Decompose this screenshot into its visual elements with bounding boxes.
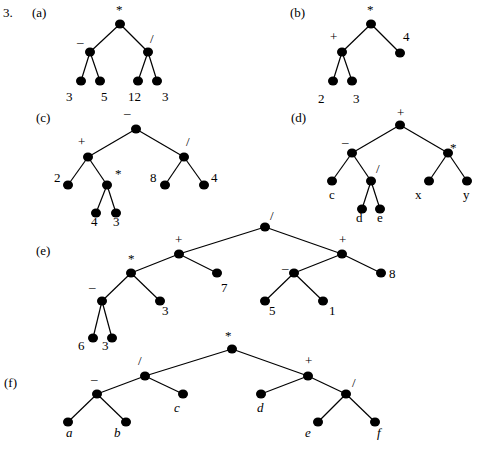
tree-edge	[68, 394, 97, 422]
tree-a: (a)*–/35123	[32, 2, 169, 104]
operand-label: c	[174, 400, 180, 415]
operand-label: y	[463, 187, 470, 202]
leaf-node	[424, 176, 434, 185]
operand-label: 3	[162, 89, 169, 104]
tree-edge	[261, 376, 308, 394]
operator-label: /	[352, 375, 356, 390]
part-label-a: (a)	[32, 5, 46, 20]
operand-label: 2	[54, 170, 61, 185]
operator-label: –	[281, 260, 289, 275]
operand-label: 4	[403, 29, 410, 44]
operand-label: 8	[150, 170, 157, 185]
operand-label: e	[305, 425, 311, 440]
operand-label: 12	[128, 89, 141, 104]
operator-label: *	[450, 140, 457, 155]
operator-node	[303, 371, 313, 380]
operator-node	[347, 148, 357, 157]
tree-b: (b)*+423	[290, 2, 410, 106]
tree-edge	[352, 153, 371, 181]
tree-edge	[102, 273, 131, 301]
leaf-node	[313, 417, 323, 426]
tree-c: (c)–+/2*8443	[36, 105, 218, 229]
operator-node	[337, 249, 347, 258]
operator-node	[140, 371, 150, 380]
operator-label: –	[123, 105, 131, 120]
part-label-e: (e)	[36, 243, 50, 258]
operand-label: 3	[113, 214, 120, 229]
leaf-node	[121, 417, 131, 426]
operand-label: 4	[91, 214, 98, 229]
operator-node	[102, 180, 112, 189]
tree-edge	[179, 254, 217, 273]
tree-edge	[265, 227, 342, 254]
operator-node	[260, 222, 270, 231]
tree-edge	[120, 24, 148, 52]
tree-edge	[97, 394, 126, 422]
operator-node	[179, 152, 189, 161]
operator-label: –	[88, 279, 96, 294]
operator-label: *	[128, 251, 135, 266]
expression-trees-figure: 3. (a)*–/35123(b)*+423(c)–+/2*8443(d)+–*…	[0, 0, 477, 449]
operator-node	[143, 47, 153, 56]
operand-label: 6	[78, 338, 85, 353]
operand-label: 3	[353, 91, 360, 106]
operator-node	[126, 268, 136, 277]
leaf-node	[327, 176, 337, 185]
leaf-node	[152, 76, 162, 85]
operator-node	[395, 120, 405, 129]
operand-label: 2	[318, 91, 325, 106]
tree-edge	[90, 24, 120, 52]
operator-node	[227, 344, 237, 353]
operand-label: 4	[211, 170, 218, 185]
operand-label: 8	[389, 266, 396, 281]
operator-label: *	[367, 2, 374, 17]
leaf-node	[212, 268, 222, 277]
operator-node	[83, 152, 93, 161]
tree-edge	[371, 24, 400, 53]
operand-label: 3	[66, 89, 73, 104]
tree-edge	[400, 125, 448, 153]
leaf-node	[107, 333, 117, 342]
tree-edge	[429, 153, 448, 181]
operand-label: d	[257, 400, 264, 415]
leaf-node	[347, 76, 357, 85]
operator-label: /	[376, 161, 380, 176]
tree-edge	[318, 394, 346, 422]
operator-node	[85, 47, 95, 56]
leaf-node	[376, 268, 386, 277]
operator-label: /	[138, 353, 142, 368]
operator-label: +	[397, 105, 404, 120]
operator-node	[337, 47, 347, 56]
operand-label: 5	[101, 89, 108, 104]
operand-label: 3	[162, 303, 169, 318]
operator-label: +	[78, 134, 85, 149]
leaf-node	[95, 76, 105, 85]
operator-label: –	[90, 371, 98, 386]
leaf-node	[318, 296, 328, 305]
operator-label: /	[186, 134, 190, 149]
tree-edge	[308, 376, 346, 394]
operator-node	[174, 249, 184, 258]
tree-edge	[232, 349, 308, 376]
tree-edge	[294, 254, 342, 273]
leaf-node	[395, 48, 405, 57]
problem-number: 3.	[3, 5, 13, 20]
operand-label: a	[66, 425, 73, 440]
operand-label: e	[377, 210, 383, 225]
leaf-node	[133, 76, 143, 85]
operand-label: f	[377, 425, 383, 440]
operator-node	[97, 296, 107, 305]
operator-node	[92, 389, 102, 398]
tree-edge	[136, 129, 184, 157]
tree-edge	[332, 153, 352, 181]
part-label-d: (d)	[291, 110, 306, 125]
operator-node	[131, 124, 141, 133]
operator-label: /	[270, 208, 274, 223]
operand-label: 1	[329, 303, 336, 318]
tree-d: (d)+–*c/xyde	[291, 105, 472, 225]
tree-edge	[88, 129, 136, 157]
tree-edge	[448, 153, 467, 181]
operand-label: 3	[102, 338, 109, 353]
leaf-node	[88, 333, 98, 342]
operator-label: –	[341, 134, 349, 149]
